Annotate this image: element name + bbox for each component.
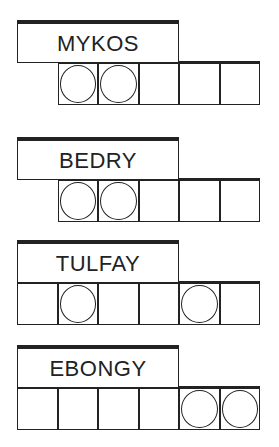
scrambled-word: MYKOS — [57, 29, 139, 57]
answer-letter-cell[interactable] — [139, 63, 180, 105]
answer-letter-cell[interactable] — [98, 63, 139, 105]
circle-marker-icon — [100, 182, 137, 220]
circle-marker-icon — [100, 65, 137, 103]
answer-letter-cell[interactable] — [58, 180, 99, 222]
answer-letter-cell[interactable] — [58, 388, 99, 430]
scrambled-word: TULFAY — [56, 249, 141, 277]
scrambled-word-box: TULFAY — [17, 240, 179, 283]
answer-letter-cell[interactable] — [17, 283, 58, 325]
answer-letter-cell[interactable] — [139, 388, 180, 430]
answer-letter-cell[interactable] — [58, 63, 99, 105]
answer-letter-cell[interactable] — [98, 180, 139, 222]
answer-letter-cell[interactable] — [139, 180, 180, 222]
answer-letter-cell[interactable] — [179, 388, 220, 430]
answer-letter-cell[interactable] — [17, 388, 58, 430]
answer-letter-cell[interactable] — [179, 180, 220, 222]
answer-letter-cell[interactable] — [179, 283, 220, 325]
scrambled-word: EBONGY — [49, 354, 146, 382]
jumble-word-ebongy: EBONGY — [17, 345, 260, 431]
circle-marker-icon — [60, 285, 97, 323]
circle-marker-icon — [181, 285, 218, 323]
answer-letter-cell[interactable] — [220, 283, 261, 325]
answer-letter-cell[interactable] — [220, 63, 261, 105]
scrambled-word-box: BEDRY — [17, 137, 179, 180]
circle-marker-icon — [60, 65, 97, 103]
circle-marker-icon — [181, 390, 218, 428]
circle-marker-icon — [222, 390, 259, 428]
answer-letter-cell[interactable] — [139, 283, 180, 325]
answer-letter-cell[interactable] — [98, 283, 139, 325]
scrambled-word: BEDRY — [59, 146, 137, 174]
scrambled-word-box: EBONGY — [17, 345, 179, 388]
answer-letter-cell[interactable] — [220, 180, 261, 222]
scrambled-word-box: MYKOS — [17, 20, 179, 63]
jumble-word-mykos: MYKOS — [17, 20, 260, 106]
circle-marker-icon — [60, 182, 97, 220]
answer-letter-cell[interactable] — [220, 388, 261, 430]
answer-letter-cell[interactable] — [58, 283, 99, 325]
jumble-word-tulfay: TULFAY — [17, 240, 260, 326]
answer-letter-cell[interactable] — [179, 63, 220, 105]
jumble-word-bedry: BEDRY — [17, 137, 260, 223]
answer-letter-cell[interactable] — [98, 388, 139, 430]
